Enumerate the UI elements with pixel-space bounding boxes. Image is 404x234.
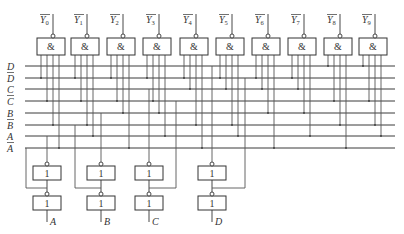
output-label: Y9 — [362, 14, 371, 26]
svg-text:1: 1 — [210, 198, 215, 209]
and-gate-y7: &Y7 — [288, 14, 316, 55]
and-gate-y3: &Y3 — [143, 14, 171, 55]
bus-label: A — [6, 131, 14, 142]
bus-label: C — [7, 96, 14, 107]
bus-label: A — [6, 143, 14, 154]
svg-text:1: 1 — [99, 168, 104, 179]
and-gates: &Y0&Y1&Y2&Y3&Y4&Y5&Y6&Y7&Y8&Y9 — [37, 14, 387, 55]
svg-text:&: & — [369, 41, 377, 52]
bus-b: B — [7, 108, 395, 119]
svg-text:1: 1 — [210, 168, 215, 179]
inverter-pair-a: 1A1 — [26, 136, 61, 227]
and-gate-y9: &Y9 — [359, 14, 387, 55]
and-gate-y8: &Y8 — [324, 14, 352, 55]
svg-text:&: & — [190, 41, 198, 52]
svg-text:&: & — [117, 41, 125, 52]
bus-label: D — [6, 73, 15, 84]
input-label-c: C — [152, 216, 159, 227]
svg-text:&: & — [298, 41, 306, 52]
output-label: Y6 — [255, 14, 265, 26]
svg-text:&: & — [262, 41, 270, 52]
gate-input-wires — [40, 55, 382, 149]
bus-d: D — [6, 61, 395, 72]
output-label: Y4 — [183, 14, 193, 26]
svg-text:&: & — [334, 41, 342, 52]
input-label-a: A — [49, 216, 57, 227]
and-gate-y1: &Y1 — [71, 14, 99, 55]
bus-label: D — [6, 61, 15, 72]
output-label: Y7 — [291, 14, 301, 26]
svg-text:1: 1 — [45, 198, 50, 209]
bus-a: A — [6, 131, 395, 142]
bus-c-bar: C — [7, 96, 395, 107]
and-gate-y6: &Y6 — [252, 14, 280, 55]
bus-label: B — [7, 108, 13, 119]
output-label: Y1 — [74, 14, 83, 26]
output-label: Y0 — [40, 14, 49, 26]
output-label: Y8 — [327, 14, 336, 26]
svg-text:1: 1 — [147, 168, 152, 179]
and-gate-y0: &Y0 — [37, 14, 65, 55]
bus-a-bar: A — [6, 143, 395, 154]
output-label: Y5 — [219, 14, 228, 26]
inverter-pair-c: 1C1 — [135, 89, 176, 227]
bus-lines: DDCCBBAA — [6, 61, 395, 154]
svg-text:1: 1 — [45, 168, 50, 179]
svg-text:&: & — [153, 41, 161, 52]
inverter-pair-b: 1B1 — [75, 113, 115, 227]
and-gate-y5: &Y5 — [216, 14, 244, 55]
svg-text:&: & — [81, 41, 89, 52]
input-label-b: B — [104, 216, 110, 227]
svg-text:1: 1 — [99, 198, 104, 209]
bus-label: B — [7, 120, 13, 131]
input-label-d: D — [214, 216, 223, 227]
svg-text:1: 1 — [147, 198, 152, 209]
svg-text:&: & — [226, 41, 234, 52]
and-gate-y4: &Y4 — [180, 14, 208, 55]
bus-d-bar: D — [6, 73, 395, 84]
output-label: Y3 — [146, 14, 155, 26]
bus-b-bar: B — [7, 120, 395, 131]
decoder-diagram: DDCCBBAA &Y0&Y1&Y2&Y3&Y4&Y5&Y6&Y7&Y8&Y9 … — [0, 0, 404, 234]
and-gate-y2: &Y2 — [107, 14, 135, 55]
output-label: Y2 — [110, 14, 119, 26]
bus-label: C — [7, 84, 14, 95]
bus-c: C — [7, 84, 395, 95]
svg-text:&: & — [47, 41, 55, 52]
